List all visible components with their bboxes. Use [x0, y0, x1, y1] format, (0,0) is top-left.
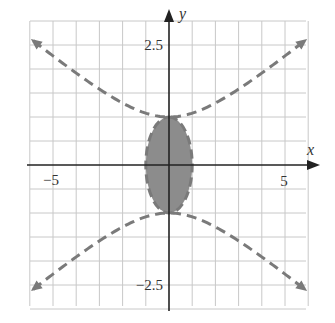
x-axis-label: x	[306, 141, 314, 158]
y-axis-label: y	[177, 5, 187, 23]
curve-arrow-icon	[31, 280, 43, 291]
x-tick-label: −5	[43, 172, 59, 188]
y-tick-label: −2.5	[136, 277, 163, 293]
y-tick-label: 2.5	[144, 37, 163, 53]
x-axis-arrow-icon	[307, 160, 320, 170]
graph: x y −5 5 2.5 −2.5	[0, 0, 335, 323]
curve-arrow-icon	[31, 39, 43, 50]
x-tick-label: 5	[280, 173, 288, 189]
y-axis-arrow-icon	[164, 9, 174, 22]
